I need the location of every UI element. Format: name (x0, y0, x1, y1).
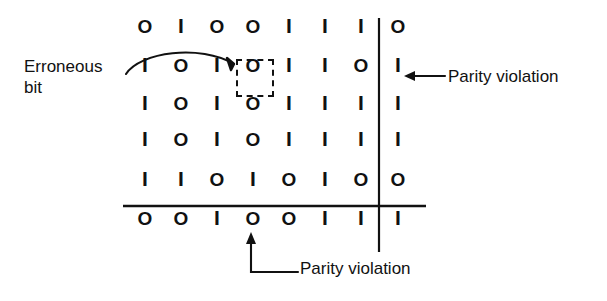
bit-cell: O (240, 129, 266, 151)
bit-cell-parity-row: I (204, 207, 230, 229)
bit-cell: O (168, 55, 194, 77)
bit-cell: O (240, 16, 266, 38)
bit-cell: O (348, 55, 374, 77)
parity-violation-column-label: Parity violation (300, 258, 411, 279)
bit-cell: I (312, 54, 338, 76)
bit-cell: I (348, 15, 374, 37)
bit-cell-parity-row: O (276, 208, 302, 230)
bit-cell: I (276, 92, 302, 114)
bit-cell-parity: O (385, 16, 411, 38)
bit-cell: I (312, 15, 338, 37)
bit-cell: O (204, 16, 230, 38)
bit-cell: I (132, 128, 158, 150)
bit-cell-parity-row: O (168, 208, 194, 230)
bit-cell: I (132, 54, 158, 76)
bit-cell: I (168, 15, 194, 37)
bit-cell: I (276, 54, 302, 76)
bit-cell: I (276, 128, 302, 150)
bit-cell: I (204, 128, 230, 150)
bit-cell: O (348, 169, 374, 191)
bit-cell: O (240, 93, 266, 115)
bit-cell: O (132, 16, 158, 38)
figure-vector-layer (0, 0, 607, 301)
bit-cell: I (312, 168, 338, 190)
bit-cell: I (276, 15, 302, 37)
parity-violation-row-label: Parity violation (448, 66, 559, 87)
erroneous-bit-label: Erroneous bit (24, 56, 102, 98)
bit-cell-parity-corner: I (385, 207, 411, 229)
parity-check-figure: O I O O I I I O I O I O I I O I I O I O … (0, 0, 607, 301)
bit-cell: I (348, 92, 374, 114)
bit-cell-parity-row: O (132, 208, 158, 230)
bit-cell-erroneous: O (240, 55, 266, 77)
bit-cell: I (348, 128, 374, 150)
bit-cell-parity-row: I (312, 207, 338, 229)
bit-cell: O (276, 169, 302, 191)
bit-cell: I (312, 128, 338, 150)
elbow-up-arrow-icon (246, 232, 298, 272)
bit-cell-parity-row: O (240, 208, 266, 230)
bit-cell: O (168, 93, 194, 115)
bit-cell: O (204, 169, 230, 191)
bit-cell-parity-row: I (348, 207, 374, 229)
bit-cell-parity: O (385, 169, 411, 191)
bit-cell: I (204, 54, 230, 76)
bit-cell-parity: I (385, 92, 411, 114)
bit-cell-parity: I (385, 54, 411, 76)
bit-cell: I (168, 168, 194, 190)
bit-cell: O (168, 129, 194, 151)
bit-cell-parity: I (385, 128, 411, 150)
bit-cell: I (132, 168, 158, 190)
bit-cell: I (312, 92, 338, 114)
bit-cell: I (132, 92, 158, 114)
bit-cell: I (240, 168, 266, 190)
bit-cell: I (204, 92, 230, 114)
